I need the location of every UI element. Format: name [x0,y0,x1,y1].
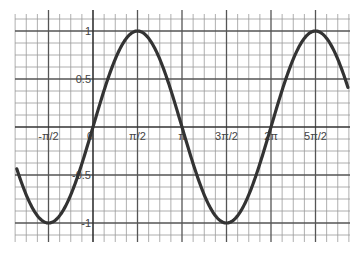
y-tick-label: 1 [85,25,91,37]
y-tick-label: 0.5 [76,73,91,85]
y-tick-label: -0.5 [72,169,91,181]
x-tick-label: 5π/2 [304,130,327,142]
y-tick-label: -1 [81,217,91,229]
sine-chart: -π/20π/2π3π/22π5π/2 10.5-0.5-1 [0,0,359,254]
x-tick-label: π/2 [129,130,146,142]
x-tick-label: -π/2 [38,130,58,142]
x-tick-label: 3π/2 [215,130,238,142]
